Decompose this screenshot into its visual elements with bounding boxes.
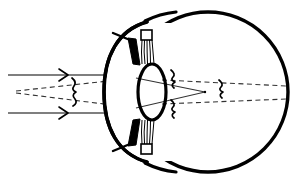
- focal-point: [204, 91, 206, 93]
- eye-ray-diagram: [0, 0, 300, 187]
- eye-diagram-canvas: [0, 0, 300, 187]
- ciliary-body-lower: [141, 144, 152, 154]
- ciliary-body-upper: [141, 30, 152, 40]
